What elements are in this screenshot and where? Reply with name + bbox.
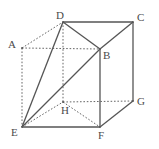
vertex-label-H: H — [61, 105, 69, 116]
vertex-point-D — [62, 21, 64, 23]
vertex-point-B — [99, 48, 101, 50]
vertex-label-C: C — [137, 12, 144, 23]
vertex-label-E: E — [11, 127, 18, 138]
edge-DB — [63, 22, 100, 49]
edges-layer — [22, 22, 133, 127]
edge-AB — [22, 48, 100, 49]
vertex-point-G — [132, 100, 134, 102]
cube-diagram: ABCDEFGH — [0, 0, 159, 149]
edge-ED — [22, 22, 63, 127]
vertex-label-B: B — [103, 50, 110, 61]
cube-svg — [0, 0, 159, 149]
vertex-point-E — [21, 126, 23, 128]
edge-BC — [100, 22, 133, 49]
edge-HG — [63, 101, 133, 102]
vertex-point-C — [132, 21, 134, 23]
edge-AD — [22, 22, 63, 48]
edge-FG — [100, 101, 133, 127]
vertex-point-H — [62, 101, 64, 103]
vertex-label-D: D — [56, 10, 64, 21]
vertex-point-F — [99, 126, 101, 128]
vertex-label-G: G — [137, 96, 145, 107]
vertex-label-A: A — [8, 39, 16, 50]
vertex-point-A — [21, 47, 23, 49]
vertex-label-F: F — [98, 130, 104, 141]
